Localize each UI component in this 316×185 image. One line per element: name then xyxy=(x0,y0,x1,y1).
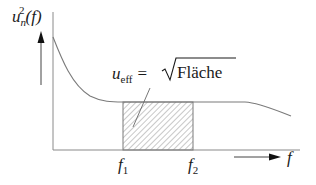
f1-sub: 1 xyxy=(123,164,129,176)
annotation-formula: ueff= xyxy=(112,64,147,85)
annotation-radicand: Fläche xyxy=(177,63,222,82)
y-axis-label: un2(f) xyxy=(12,4,42,28)
f1-label: f1 xyxy=(118,155,128,176)
annotation-lhs-sub: eff xyxy=(121,73,133,85)
noise-spectrum-diagram: un2(f) ueff= Fläche f1 f2 f xyxy=(0,0,316,185)
annotation-lhs-base: u xyxy=(112,64,121,83)
right-arrow-icon xyxy=(269,154,281,161)
y-label-tail: (f) xyxy=(26,7,42,26)
annotation-equals: = xyxy=(138,64,148,83)
y-label-sup: 2 xyxy=(19,4,25,16)
f2-sub: 2 xyxy=(193,164,199,176)
x-axis-label: f xyxy=(287,148,294,167)
f2-label: f2 xyxy=(188,155,198,176)
up-arrow-icon xyxy=(38,31,45,43)
